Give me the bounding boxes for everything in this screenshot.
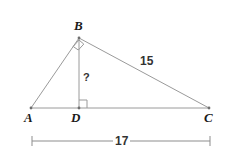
- segment-ab: [31, 38, 79, 108]
- vertex-label-c: C: [204, 111, 213, 124]
- unknown-length-label-bd: ?: [83, 72, 90, 83]
- vertex-dot-c: [208, 107, 211, 110]
- vertex-dot-b: [78, 37, 81, 40]
- side-length-label-bc: 15: [138, 55, 155, 67]
- vertex-dot-a: [30, 107, 33, 110]
- vertex-label-d: D: [71, 111, 80, 124]
- dimension-label-ac: 17: [113, 135, 130, 147]
- vertex-label-a: A: [24, 111, 33, 124]
- vertex-label-b: B: [74, 19, 83, 32]
- triangle-outline: [31, 38, 209, 108]
- right-angle-mark-at-d: [79, 100, 87, 108]
- geometry-figure: A B C D 15 ? 17: [0, 0, 229, 157]
- segment-bc: [79, 38, 209, 108]
- vertex-dot-d: [78, 107, 81, 110]
- vertex-dots: [30, 37, 211, 110]
